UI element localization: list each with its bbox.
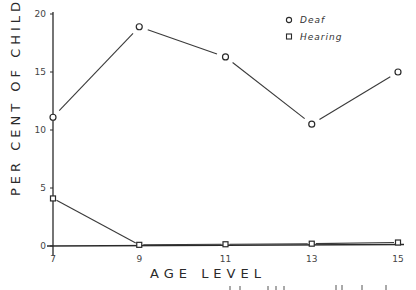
series-line-segment — [319, 77, 390, 120]
x-axis-title: AGE LEVEL — [150, 266, 266, 281]
series-line-segment — [148, 30, 217, 54]
square-marker-icon — [137, 242, 142, 247]
x-tick-label: 11 — [220, 254, 231, 264]
series-hearing — [51, 196, 401, 247]
series-line-segment — [59, 33, 133, 110]
x-tick-label: 9 — [136, 254, 142, 264]
series-line-segment — [316, 243, 394, 244]
legend-item-hearing: Hearing — [287, 32, 343, 42]
series-line-segment — [233, 62, 305, 118]
y-tick-label: 10 — [35, 125, 47, 135]
series-deaf — [50, 24, 401, 127]
x-axis-ticks: 79111315 — [50, 254, 404, 264]
y-tick-label: 15 — [35, 67, 46, 77]
series-line-segment — [143, 244, 221, 245]
x-tick-label: 13 — [306, 254, 317, 264]
circle-marker-icon — [223, 54, 229, 60]
y-tick-label: 5 — [40, 183, 46, 193]
square-marker-icon — [309, 241, 314, 246]
axes — [47, 12, 404, 256]
y-tick-label: 0 — [40, 241, 46, 251]
x-tick-label: 15 — [392, 254, 403, 264]
circle-marker-icon — [286, 17, 291, 22]
series-line-segment — [57, 200, 136, 243]
square-marker-icon — [396, 240, 401, 245]
legend-item-deaf: Deaf — [286, 15, 326, 25]
square-marker-icon — [51, 196, 56, 201]
y-axis-title: PER CENT OF CHILDREN — [8, 0, 23, 196]
circle-marker-icon — [50, 114, 56, 120]
circle-marker-icon — [136, 24, 142, 30]
x-tick-label: 7 — [50, 254, 56, 264]
series-group — [50, 24, 401, 248]
legend-label-deaf: Deaf — [300, 15, 326, 25]
y-tick-label: 20 — [35, 9, 47, 19]
cropped-caption-fragment — [0, 284, 416, 290]
legend-label-hearing: Hearing — [300, 32, 342, 42]
square-marker-icon — [223, 242, 228, 247]
legend: Deaf Hearing — [286, 15, 342, 42]
square-marker-icon — [287, 34, 292, 39]
circle-marker-icon — [395, 69, 401, 75]
y-axis-ticks: 05101520 — [35, 9, 53, 251]
line-chart: 05101520 79111315 PER CENT OF CHILDREN A… — [0, 0, 416, 290]
circle-marker-icon — [309, 121, 315, 127]
series-line-segment — [229, 244, 307, 245]
